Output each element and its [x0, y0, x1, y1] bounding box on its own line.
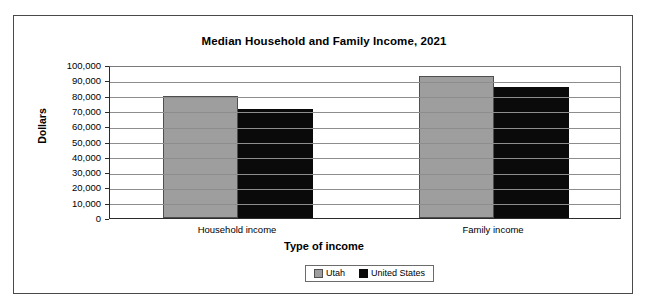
y-axis-tick-label: 40,000 [31, 153, 101, 163]
chart-legend: Utah United States [305, 265, 434, 282]
plot-area [109, 66, 621, 219]
y-axis-tick-mark [105, 112, 109, 113]
gridline [110, 112, 620, 113]
y-axis-tick-mark [105, 66, 109, 67]
y-axis-tick-label: 100,000 [31, 61, 101, 71]
legend-swatch-icon-utah [314, 269, 323, 278]
y-axis-tick-label: 10,000 [31, 199, 101, 209]
y-axis-tick-label: 50,000 [31, 138, 101, 148]
y-axis-tick-mark [105, 219, 109, 220]
bar-united-states-household-income [238, 109, 313, 218]
legend-swatch-icon-united-states [359, 269, 368, 278]
gridline [110, 189, 620, 190]
chart-screenshot: Median Household and Family Income, 2021… [0, 0, 648, 304]
y-axis-tick-label: 90,000 [31, 76, 101, 86]
y-axis-tick-label: 20,000 [31, 183, 101, 193]
x-axis-label: Type of income [14, 240, 634, 252]
gridline [110, 82, 620, 83]
y-axis-tick-mark [105, 81, 109, 82]
y-axis-tick-mark [105, 97, 109, 98]
y-axis-tick-mark [105, 173, 109, 174]
chart-frame: Median Household and Family Income, 2021… [13, 15, 633, 294]
gridline [110, 97, 620, 98]
y-axis-tick-mark [105, 127, 109, 128]
y-axis-tick-label: 70,000 [31, 107, 101, 117]
y-axis-tick-mark [105, 188, 109, 189]
y-axis-tick-label: 0 [31, 214, 101, 224]
y-axis-tick-mark [105, 204, 109, 205]
x-axis-category-label: Family income [403, 224, 583, 235]
y-axis-tick-mark [105, 158, 109, 159]
gridline [110, 128, 620, 129]
chart-title: Median Household and Family Income, 2021 [14, 35, 634, 47]
legend-item-united-states: United States [359, 268, 425, 278]
legend-label-united-states: United States [371, 268, 425, 278]
legend-label-utah: Utah [326, 268, 345, 278]
gridline [110, 143, 620, 144]
bar-utah-household-income [163, 96, 238, 218]
y-axis-tick-mark [105, 143, 109, 144]
gridline [110, 158, 620, 159]
legend-item-utah: Utah [314, 268, 345, 278]
bar-united-states-family-income [494, 87, 569, 218]
gridline [110, 204, 620, 205]
y-axis-tick-label: 60,000 [31, 122, 101, 132]
gridline [110, 174, 620, 175]
y-axis-tick-label: 30,000 [31, 168, 101, 178]
y-axis-tick-label: 80,000 [31, 92, 101, 102]
x-axis-category-label: Household income [147, 224, 327, 235]
